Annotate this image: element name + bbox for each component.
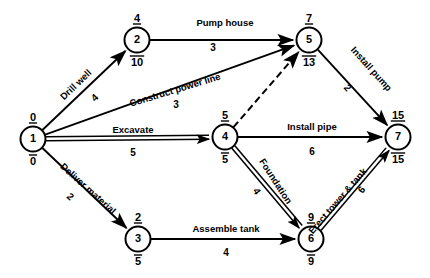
node-earliest-time-2: 4 bbox=[134, 12, 141, 24]
edge-duration-e-1-2: 4 bbox=[89, 91, 101, 103]
node-number-2: 2 bbox=[134, 33, 140, 45]
network-diagram: 1002410325455571369971515 Drill well4Con… bbox=[0, 0, 430, 278]
edge-duration-e-1-4: 5 bbox=[130, 147, 136, 158]
edge-label-e-1-2: Drill well bbox=[58, 67, 94, 102]
edge-label-e-1-3: Deliver material bbox=[58, 161, 118, 217]
edge-1-to-4 bbox=[46, 135, 209, 141]
node-number-5: 5 bbox=[306, 33, 312, 45]
node-number-7: 7 bbox=[395, 130, 401, 142]
node-3[interactable]: 325 bbox=[126, 211, 151, 267]
node-latest-time-2: 10 bbox=[131, 56, 143, 68]
node-earliest-time-3: 2 bbox=[135, 211, 141, 223]
edge-label-e-5-7: Install pump bbox=[349, 44, 395, 93]
edge-duration-e-4-6: 4 bbox=[251, 186, 263, 197]
node-number-1: 1 bbox=[30, 132, 36, 144]
edge-label-e-6-7: Erect tower & tank bbox=[306, 165, 369, 236]
edge-5-to-7 bbox=[318, 50, 387, 126]
network-canvas: 1002410325455571369971515 Drill well4Con… bbox=[0, 0, 430, 278]
node-earliest-time-5: 7 bbox=[306, 12, 312, 24]
node-2[interactable]: 2410 bbox=[125, 12, 150, 68]
node-latest-time-5: 13 bbox=[303, 56, 315, 68]
node-latest-time-3: 5 bbox=[135, 255, 141, 267]
node-latest-time-6: 9 bbox=[308, 255, 314, 267]
node-earliest-time-7: 15 bbox=[392, 109, 404, 121]
edge-1-to-2 bbox=[42, 51, 125, 130]
edge-label-e-2-5: Pump house bbox=[196, 17, 253, 28]
node-number-3: 3 bbox=[135, 232, 141, 244]
edge-duration-e-3-6: 4 bbox=[223, 247, 229, 258]
edge-label-e-1-4: Excavate bbox=[112, 124, 153, 135]
node-7[interactable]: 71515 bbox=[386, 109, 411, 165]
node-4[interactable]: 455 bbox=[213, 109, 238, 165]
edge-duration-e-4-7: 6 bbox=[309, 146, 315, 157]
edge-label-e-4-6: Foundation bbox=[257, 156, 294, 206]
edge-duration-e-1-5: 3 bbox=[173, 99, 179, 110]
node-earliest-time-1: 0 bbox=[30, 111, 36, 123]
node-latest-time-4: 5 bbox=[222, 153, 228, 165]
edge-duration-e-2-5: 3 bbox=[210, 42, 216, 53]
node-latest-time-7: 15 bbox=[392, 153, 404, 165]
edge-label-e-4-7: Install pipe bbox=[287, 121, 337, 132]
edge-label-e-3-6: Assemble tank bbox=[192, 223, 260, 234]
node-1[interactable]: 100 bbox=[21, 111, 46, 167]
edge-duration-e-1-3: 2 bbox=[65, 190, 77, 202]
node-5[interactable]: 5713 bbox=[297, 12, 322, 68]
node-number-4: 4 bbox=[222, 130, 229, 142]
node-earliest-time-4: 5 bbox=[222, 109, 228, 121]
node-latest-time-1: 0 bbox=[30, 155, 36, 167]
edge-duration-e-6-7: 6 bbox=[355, 184, 367, 196]
